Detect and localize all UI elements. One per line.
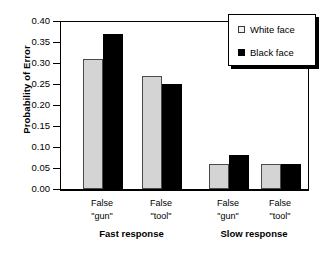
bar-white-face — [261, 164, 281, 189]
y-axis-tick-label: 0.35 — [14, 37, 50, 47]
chart-legend: White face Black face — [228, 14, 316, 66]
y-axis-tick-label: 0.15 — [14, 121, 50, 131]
x-axis-category-label: False "gun" — [72, 197, 132, 222]
bar-black-face — [103, 34, 123, 189]
y-axis-tick — [53, 126, 60, 127]
y-axis-tick — [53, 84, 60, 85]
y-axis-tick — [53, 42, 60, 43]
legend-swatch-black-face-icon — [238, 49, 245, 56]
y-axis-tick — [53, 168, 60, 169]
legend-item-black-face: Black face — [238, 46, 294, 58]
y-axis-tick-label: 0.00 — [14, 184, 50, 194]
x-axis-group-label: Slow response — [199, 228, 309, 239]
bar-black-face — [281, 164, 301, 189]
y-axis-tick — [53, 21, 60, 22]
y-axis-tick-label-text: 0.25 — [18, 79, 50, 89]
y-axis-tick-label: 0.30 — [14, 58, 50, 68]
y-axis-tick-label-text: 0.00 — [18, 184, 50, 194]
y-axis-tick — [53, 147, 60, 148]
y-axis-tick-label-text: 0.20 — [18, 100, 50, 110]
legend-swatch-white-face-icon — [238, 26, 245, 33]
bar-black-face — [229, 155, 249, 189]
x-axis-category-label: False "tool" — [250, 197, 310, 222]
y-axis-tick-label-text: 0.40 — [18, 16, 50, 26]
bar-white-face — [209, 164, 229, 189]
y-axis-tick-label: 0.25 — [14, 79, 50, 89]
x-axis-category-label: False "tool" — [131, 197, 191, 222]
bar-black-face — [162, 84, 182, 189]
legend-item-white-face: White face — [238, 23, 295, 35]
y-axis-tick-label-text: 0.05 — [18, 163, 50, 173]
x-axis-group-label: Fast response — [77, 228, 187, 239]
y-axis-tick — [53, 63, 60, 64]
y-axis-tick-label-text: 0.15 — [18, 121, 50, 131]
legend-label-black-face: Black face — [250, 47, 294, 58]
y-axis-tick-label-text: 0.35 — [18, 37, 50, 47]
bar-white-face — [142, 76, 162, 189]
bar-chart-figure: Probability of Error 0.000.050.100.150.2… — [0, 0, 323, 265]
y-axis-tick-label: 0.40 — [14, 16, 50, 26]
y-axis-tick — [53, 105, 60, 106]
legend-label-white-face: White face — [250, 24, 295, 35]
y-axis-tick-label: 0.10 — [14, 142, 50, 152]
y-axis-tick-label-text: 0.30 — [18, 58, 50, 68]
x-axis-line — [60, 189, 309, 191]
y-axis-tick-label: 0.05 — [14, 163, 50, 173]
y-axis-tick — [53, 189, 60, 190]
y-axis-tick-label: 0.20 — [14, 100, 50, 110]
x-axis-category-label: False "gun" — [198, 197, 258, 222]
y-axis-tick-label-text: 0.10 — [18, 142, 50, 152]
bar-white-face — [83, 59, 103, 189]
